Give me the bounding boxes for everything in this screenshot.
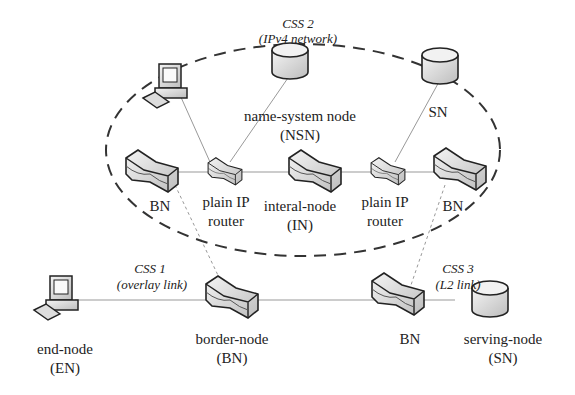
css3-title: CSS 3	[442, 261, 473, 277]
router-left-label-2: router	[208, 212, 244, 230]
serving-node-label: serving-node	[464, 330, 542, 348]
router-icon	[126, 150, 178, 192]
in-label: interal-node	[264, 197, 336, 215]
css3-subtitle: (L2 link)	[435, 277, 480, 293]
en-label-abbr: (EN)	[50, 359, 80, 377]
bn-bottom-label: BN	[400, 330, 421, 348]
router-icon	[372, 273, 424, 315]
css2-subtitle: (IPv4 network)	[259, 31, 337, 47]
computer-icon	[143, 64, 187, 108]
in-label-abbr: (IN)	[287, 216, 313, 234]
bn-right-label: BN	[443, 197, 464, 215]
database-icon	[272, 43, 308, 79]
css2-title: CSS 2	[282, 16, 313, 32]
en-label: end-node	[37, 340, 93, 358]
serving-node-label-abbr: (SN)	[488, 349, 517, 367]
computer-icon	[34, 276, 78, 320]
router-icon	[208, 158, 242, 185]
nsn-label-abbr: (NSN)	[280, 126, 320, 144]
router-right-label: plain IP	[361, 193, 408, 211]
router-icon	[434, 148, 486, 190]
router-icon	[289, 150, 341, 192]
router-left-label: plain IP	[202, 193, 249, 211]
router-icon	[206, 276, 258, 318]
css1-title: CSS 1	[134, 261, 165, 277]
border-node-label-abbr: (BN)	[217, 349, 248, 367]
database-icon	[422, 48, 458, 84]
border-node-label: border-node	[195, 330, 268, 348]
network-diagram: CSS 2 (IPv4 network) CSS 1 (overlay link…	[0, 0, 575, 395]
css1-subtitle: (overlay link)	[117, 277, 187, 293]
bn-left-label: BN	[150, 197, 171, 215]
nsn-label: name-system node	[244, 107, 356, 125]
router-right-label-2: router	[367, 212, 403, 230]
router-icon	[371, 158, 405, 185]
sn-top-label: SN	[428, 103, 447, 121]
